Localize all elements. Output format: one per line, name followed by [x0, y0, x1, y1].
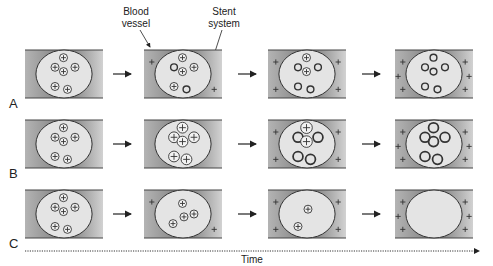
vessel-stage-2	[144, 50, 222, 98]
pointer-blood-vessel	[140, 30, 150, 47]
stent-coating	[406, 190, 462, 238]
annotation-blood-vessel-line2: vessel	[122, 18, 150, 29]
row-label: A	[9, 96, 18, 111]
annotation-stent-system-line1: Stent	[212, 6, 236, 17]
row-b: B	[9, 120, 473, 181]
stent-drug-release-diagram: Blood vessel Stent system ABC Time	[0, 0, 493, 266]
vessel-stage-1	[25, 50, 103, 98]
vessel-stage-3	[268, 190, 346, 238]
time-axis-label: Time	[241, 254, 263, 265]
stent-coating	[279, 190, 335, 238]
row-a: A	[9, 50, 473, 111]
annotation-blood-vessel: Blood vessel	[122, 6, 150, 47]
vessel-stage-3	[268, 120, 346, 168]
vessel-stage-4	[395, 50, 473, 98]
time-axis-arrowhead	[474, 248, 480, 254]
time-axis: Time	[25, 248, 480, 265]
stent-coating	[406, 120, 462, 168]
vessel-stage-2	[144, 190, 222, 238]
rows-layer: ABC	[9, 50, 473, 251]
vessel-stage-1	[25, 190, 103, 238]
annotation-blood-vessel-line1: Blood	[123, 6, 149, 17]
vessel-stage-2	[144, 120, 222, 168]
row-label: B	[9, 166, 18, 181]
vessel-stage-4	[395, 120, 473, 168]
row-label: C	[9, 236, 18, 251]
vessel-stage-3	[268, 50, 346, 98]
annotation-stent-system-line2: system	[208, 18, 240, 29]
vessel-stage-4	[395, 190, 473, 238]
vessel-stage-1	[25, 120, 103, 168]
row-c: C	[9, 190, 473, 251]
